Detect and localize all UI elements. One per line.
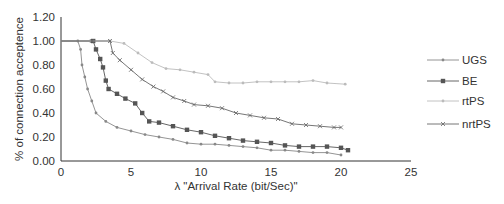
dot-marker xyxy=(340,154,343,157)
legend-label: UGS xyxy=(462,54,487,66)
dot-marker xyxy=(144,133,147,136)
x-tick-label: 25 xyxy=(405,166,418,178)
y-tick-label: 1.00 xyxy=(33,35,55,47)
series-line xyxy=(61,41,345,84)
square-marker xyxy=(98,57,102,61)
dot-marker xyxy=(95,112,98,115)
x-tick-label: 20 xyxy=(335,166,348,178)
dot-marker xyxy=(326,151,329,154)
legend-label: nrtPS xyxy=(462,118,491,130)
legend-item-be: BE xyxy=(427,75,478,87)
square-marker xyxy=(157,120,161,124)
square-marker xyxy=(123,96,127,100)
x-tick-label: 0 xyxy=(58,166,64,178)
square-marker xyxy=(101,65,105,69)
dot-marker xyxy=(151,61,154,64)
x-axis-title: λ "Arrival Rate (bit/Sec)" xyxy=(174,180,297,192)
x-tick-label: 5 xyxy=(128,166,134,178)
dot-marker xyxy=(130,130,133,133)
x-marker xyxy=(151,85,155,89)
dot-marker xyxy=(116,126,119,129)
dot-marker xyxy=(207,73,210,76)
dot-marker xyxy=(312,79,315,82)
dot-marker xyxy=(123,42,126,45)
line-chart: % of connection acceptence 0.000.200.400… xyxy=(0,0,504,204)
dot-marker xyxy=(312,151,315,154)
dot-marker xyxy=(442,100,445,103)
dot-marker xyxy=(298,150,301,153)
y-axis: 0.000.200.400.600.801.001.20 xyxy=(33,11,55,167)
dot-marker xyxy=(242,82,245,85)
dot-marker xyxy=(172,138,175,141)
square-marker xyxy=(227,136,231,140)
square-marker xyxy=(94,47,98,51)
legend-label: rtPS xyxy=(462,95,485,107)
x-axis: 0510152025 xyxy=(58,166,418,178)
legend-item-rtps: rtPS xyxy=(427,95,485,107)
dot-marker xyxy=(179,68,182,71)
series-line xyxy=(61,41,341,155)
x-marker xyxy=(161,89,165,93)
dot-marker xyxy=(344,83,347,86)
legend-label: BE xyxy=(462,75,478,87)
plot-area xyxy=(61,39,350,157)
dot-marker xyxy=(228,82,231,85)
square-marker xyxy=(241,138,245,142)
square-marker xyxy=(311,144,315,148)
dot-marker xyxy=(83,76,86,79)
dot-marker xyxy=(104,120,107,123)
dot-marker xyxy=(214,80,217,83)
dot-marker xyxy=(165,67,168,70)
dot-marker xyxy=(214,143,217,146)
dot-marker xyxy=(193,71,196,74)
square-marker xyxy=(441,79,445,83)
square-marker xyxy=(213,134,217,138)
y-tick-label: 1.20 xyxy=(33,11,55,23)
square-marker xyxy=(185,128,189,132)
dot-marker xyxy=(228,144,231,147)
dot-marker xyxy=(326,82,329,85)
y-tick-label: 0.00 xyxy=(33,155,55,167)
dot-marker xyxy=(284,149,287,152)
square-marker xyxy=(283,143,287,147)
series-be xyxy=(61,39,350,153)
dot-marker xyxy=(298,80,301,83)
series-line xyxy=(61,41,341,127)
square-marker xyxy=(269,141,273,145)
dot-marker xyxy=(81,64,84,67)
legend: UGSBErtPSnrtPS xyxy=(427,54,491,130)
square-marker xyxy=(346,148,350,152)
square-marker xyxy=(140,111,144,115)
y-axis-label: % of connection acceptence xyxy=(13,17,25,161)
dot-marker xyxy=(90,100,93,103)
square-marker xyxy=(339,146,343,150)
dot-marker xyxy=(284,80,287,83)
series-line xyxy=(61,41,348,150)
square-marker xyxy=(297,144,301,148)
legend-item-ugs: UGS xyxy=(427,54,487,66)
legend-item-nrtps: nrtPS xyxy=(427,118,491,130)
dot-marker xyxy=(86,88,89,91)
dot-marker xyxy=(79,48,82,51)
dot-marker xyxy=(158,136,161,139)
dot-marker xyxy=(186,142,189,145)
x-marker xyxy=(140,77,144,81)
dot-marker xyxy=(256,80,259,83)
series-ugs xyxy=(61,40,342,157)
x-marker xyxy=(118,58,122,62)
dot-marker xyxy=(256,146,259,149)
square-marker xyxy=(104,78,108,82)
dot-marker xyxy=(200,143,203,146)
y-tick-label: 0.40 xyxy=(33,107,55,119)
square-marker xyxy=(171,124,175,128)
x-marker xyxy=(129,68,133,72)
dot-marker xyxy=(442,59,445,62)
x-tick-label: 15 xyxy=(265,166,278,178)
dot-marker xyxy=(242,145,245,148)
series-nrtps xyxy=(61,39,343,129)
x-tick-label: 10 xyxy=(195,166,208,178)
y-tick-label: 0.60 xyxy=(33,83,55,95)
y-axis-title: % of connection acceptence xyxy=(13,17,25,161)
dot-marker xyxy=(137,52,140,55)
dot-marker xyxy=(270,80,273,83)
